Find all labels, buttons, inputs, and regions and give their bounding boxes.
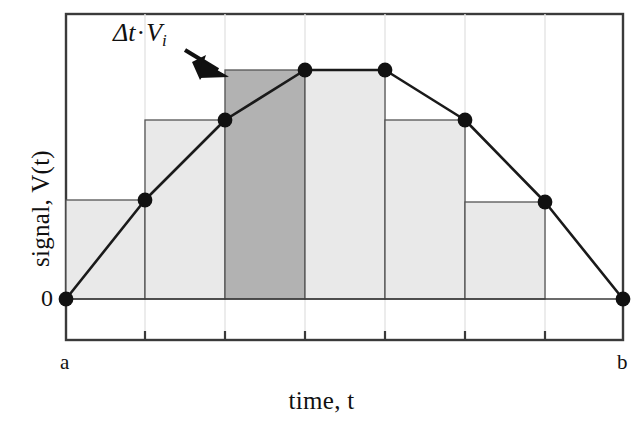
figure-container: Δt·Vi signal, V(t) 0 a b time, t <box>0 0 643 428</box>
x-axis-end-label: b <box>617 352 628 373</box>
delta-t-vi-annotation: Δt·Vi <box>113 20 167 49</box>
annotation-t-symbol: t <box>128 18 135 47</box>
data-point <box>138 193 153 208</box>
data-point <box>458 113 473 128</box>
annotation-v-symbol: V <box>146 18 162 47</box>
riemann-bar-highlighted <box>225 70 305 299</box>
riemann-bar <box>305 70 385 299</box>
riemann-bar <box>145 120 225 299</box>
data-point <box>616 292 631 307</box>
x-axis-start-label: a <box>60 352 69 373</box>
riemann-bar <box>385 120 465 299</box>
riemann-bar <box>465 202 545 299</box>
data-point <box>218 113 233 128</box>
data-point <box>538 195 553 210</box>
y-axis-origin-label: 0 <box>41 286 53 310</box>
annotation-operator: · <box>136 18 147 47</box>
x-axis-label: time, t <box>0 388 643 413</box>
riemann-sum-plot <box>0 0 643 428</box>
data-point <box>298 63 313 78</box>
data-point <box>378 63 393 78</box>
annotation-subscript: i <box>162 31 167 50</box>
y-axis-label: signal, V(t) <box>28 109 53 309</box>
data-point <box>59 292 74 307</box>
annotation-delta-symbol: Δ <box>113 18 128 47</box>
